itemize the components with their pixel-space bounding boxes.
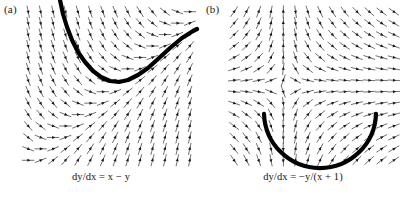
field-arrow-head (51, 22, 54, 26)
field-arrow-head (188, 147, 191, 151)
field-arrow-head (113, 124, 116, 128)
field-arrow-head (188, 158, 191, 162)
field-arrow-head (233, 101, 237, 104)
field-arrow-head (307, 90, 311, 93)
field-arrow-head (294, 22, 297, 26)
field-arrow-head (331, 158, 334, 162)
field-arrow-head (294, 135, 297, 139)
field-arrow-head (282, 90, 285, 94)
field-arrow-head (176, 147, 179, 151)
field-arrow-head (318, 33, 321, 37)
field-arrow-head (257, 68, 261, 71)
field-arrow-head (368, 79, 371, 82)
field-arrow-head (176, 22, 179, 25)
field-arrow-head (176, 158, 179, 162)
field-arrow-head (51, 56, 54, 60)
field-arrow-head (368, 90, 371, 93)
field-arrow-head (306, 102, 310, 105)
field-arrow-head (138, 33, 142, 36)
field-arrow-head (282, 102, 285, 105)
field-arrow-head (245, 21, 248, 25)
field-arrow-head (245, 56, 249, 59)
field-arrow-head (331, 102, 335, 105)
field-arrow-head (40, 147, 43, 150)
field-arrow-head (163, 112, 166, 116)
field-arrow-head (51, 159, 55, 162)
field-arrow-head (319, 79, 323, 82)
field-arrow-head (152, 44, 155, 47)
field-arrow-head (126, 113, 129, 117)
panel-b-caption: dy/dx = −y/(x + 1) (202, 171, 404, 182)
field-arrow-head (380, 102, 384, 105)
field-arrow-head (393, 67, 397, 70)
field-arrow-head (368, 67, 372, 70)
field-arrow-head (331, 90, 334, 93)
field-arrow-head (232, 159, 235, 163)
field-arrow-head (269, 159, 272, 163)
field-arrow-head (39, 56, 42, 60)
field-arrow-head (233, 68, 237, 71)
field-arrow-head (257, 90, 261, 93)
field-arrow-head (282, 32, 285, 35)
field-arrow-head (64, 33, 67, 37)
field-arrow-head (245, 136, 248, 140)
field-arrow-head (257, 9, 260, 13)
field-arrow-head (381, 79, 384, 82)
field-arrow-head (368, 147, 372, 150)
field-arrow-head (176, 135, 179, 139)
field-arrow-head (188, 89, 191, 93)
field-arrow-head (27, 33, 30, 37)
field-arrow-head (380, 21, 384, 24)
field-arrow-head (176, 101, 179, 105)
field-arrow-head (51, 90, 54, 94)
field-arrow-head (51, 10, 54, 14)
field-arrow-head (269, 21, 272, 25)
field-arrow-head (269, 44, 272, 48)
field-arrow-head (26, 113, 29, 117)
field-arrow-head (51, 113, 55, 116)
field-arrow-head (39, 33, 42, 37)
field-arrow-head (76, 67, 79, 71)
field-arrow-head (306, 22, 309, 26)
field-arrow-head (188, 101, 191, 105)
field-arrow-head (282, 21, 285, 24)
field-arrow-head (26, 79, 29, 83)
field-arrow-head (232, 45, 236, 48)
field-arrow-head (282, 114, 285, 117)
field-arrow-head (65, 124, 68, 127)
field-arrow-head (76, 33, 79, 37)
field-arrow-head (282, 44, 285, 47)
field-arrow-head (294, 112, 297, 116)
field-arrow-head (176, 67, 179, 71)
field-arrow-head (331, 21, 334, 25)
field-arrow-head (102, 90, 105, 93)
field-arrow-head (27, 22, 30, 26)
field-arrow-head (294, 56, 297, 60)
field-arrow-head (282, 55, 285, 58)
field-arrow-head (307, 79, 311, 82)
field-arrow-head (380, 148, 384, 151)
field-arrow-head (294, 33, 297, 37)
field-arrow-head (331, 10, 334, 14)
field-arrow-head (151, 135, 154, 139)
field-arrow-head (39, 10, 42, 14)
field-arrow-head (319, 90, 323, 93)
field-arrow-head (139, 56, 142, 59)
field-arrow-head (176, 112, 179, 116)
field-arrow-head (392, 44, 396, 47)
field-arrow-head (245, 33, 248, 37)
field-arrow-head (163, 147, 166, 151)
field-arrow-head (188, 124, 191, 128)
field-arrow-head (89, 102, 92, 105)
field-arrow-head (126, 22, 129, 26)
field-arrow-head (355, 33, 359, 36)
field-arrow-head (138, 10, 141, 14)
field-arrow-head (77, 113, 80, 116)
panel-a-slope-field (0, 0, 202, 197)
field-arrow-head (164, 33, 167, 36)
field-arrow-head (64, 79, 67, 83)
field-arrow-head (392, 10, 396, 13)
field-arrow-head (26, 45, 29, 49)
field-arrow-head (76, 158, 79, 162)
field-arrow-head (245, 90, 248, 93)
